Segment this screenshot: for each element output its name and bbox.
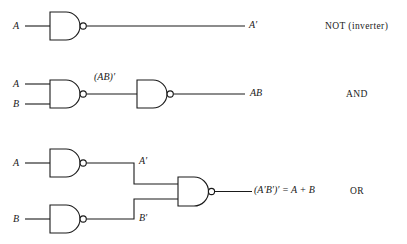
nand-gate-body-row1 bbox=[50, 12, 80, 40]
input-label-a-row2: A bbox=[13, 79, 19, 89]
inversion-bubble-row3-g1 bbox=[80, 160, 86, 166]
nand-gate-body-row3-g3 bbox=[178, 177, 209, 206]
input-label-a-row1: A bbox=[13, 21, 19, 31]
output-label-or-row3: (A′B′)′ = A + B bbox=[254, 185, 315, 195]
row-title-and: AND bbox=[346, 89, 368, 99]
wire-b-prime-route bbox=[86, 199, 178, 219]
inversion-bubble-row2-g1 bbox=[80, 91, 86, 97]
inversion-bubble-row3-g3 bbox=[208, 188, 214, 194]
inversion-bubble-row1 bbox=[80, 23, 86, 29]
logic-gate-figure: A A′ NOT (inverter) A B (AB)′ AB AND A B… bbox=[0, 0, 407, 244]
inversion-bubble-row3-g2 bbox=[80, 216, 86, 222]
output-label-a-prime-row1: A′ bbox=[249, 20, 257, 30]
input-label-b-row3: B bbox=[13, 214, 19, 224]
gate-schematic-canvas bbox=[0, 0, 407, 244]
inversion-bubble-row2-g2 bbox=[167, 91, 173, 97]
wire-label-b-prime-row3: B′ bbox=[139, 213, 147, 223]
wire-label-a-prime-row3: A′ bbox=[139, 156, 147, 166]
nand-gate-body-row2-g1 bbox=[50, 80, 80, 108]
nand-gate-body-row3-g2 bbox=[50, 205, 80, 233]
row-title-not: NOT (inverter) bbox=[325, 21, 388, 31]
wire-a-prime-route bbox=[86, 163, 178, 184]
row-title-or: OR bbox=[350, 186, 364, 196]
input-label-a-row3: A bbox=[13, 158, 19, 168]
wire-label-ab-prime-row2: (AB)′ bbox=[94, 72, 115, 82]
output-label-ab-row2: AB bbox=[250, 88, 262, 98]
nand-gate-body-row2-g2 bbox=[137, 80, 167, 108]
nand-gate-body-row3-g1 bbox=[50, 149, 80, 177]
input-label-b-row2: B bbox=[13, 99, 19, 109]
